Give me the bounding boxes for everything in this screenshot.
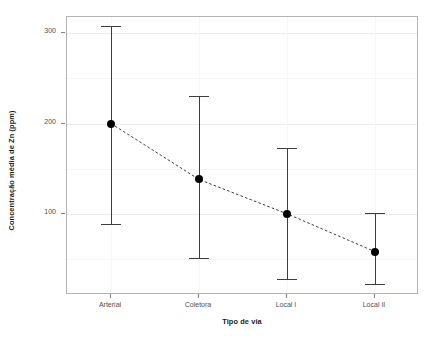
y-tick-mark bbox=[61, 123, 65, 124]
y-tick-label: 200 bbox=[0, 118, 56, 125]
gridline-major bbox=[67, 124, 417, 125]
gridline-major bbox=[67, 214, 417, 215]
errorbar-cap-lower bbox=[101, 224, 121, 225]
x-tick-label: Local I bbox=[241, 301, 331, 308]
errorbar-cap-upper bbox=[277, 148, 297, 149]
connector-line bbox=[67, 17, 418, 294]
x-tick-mark bbox=[286, 294, 287, 298]
x-tick-label: Coletora bbox=[153, 301, 243, 308]
y-tick-mark bbox=[61, 32, 65, 33]
x-tick-mark bbox=[110, 294, 111, 298]
x-tick-mark bbox=[198, 294, 199, 298]
y-axis-title: Concentração média de Zn (ppm) bbox=[0, 0, 22, 341]
data-point bbox=[195, 175, 203, 183]
chart-container: Concentração média de Zn (ppm) 100200300… bbox=[0, 0, 436, 341]
data-point bbox=[283, 210, 291, 218]
x-tick-label: Local II bbox=[329, 301, 419, 308]
gridline-minor bbox=[67, 169, 417, 170]
data-point bbox=[107, 120, 115, 128]
gridline-minor bbox=[67, 78, 417, 79]
y-tick-label: 300 bbox=[0, 27, 56, 34]
errorbar-cap-upper bbox=[101, 26, 121, 27]
errorbar-cap-upper bbox=[189, 96, 209, 97]
errorbar-cap-lower bbox=[277, 279, 297, 280]
errorbar-cap-lower bbox=[365, 284, 385, 285]
x-tick-mark bbox=[374, 294, 375, 298]
y-tick-mark bbox=[61, 213, 65, 214]
x-tick-label: Arterial bbox=[65, 301, 155, 308]
errorbar-cap-upper bbox=[365, 213, 385, 214]
errorbar-cap-lower bbox=[189, 258, 209, 259]
y-tick-label: 100 bbox=[0, 208, 56, 215]
gridline-minor bbox=[67, 259, 417, 260]
data-point bbox=[371, 248, 379, 256]
x-axis-title: Tipo de via bbox=[66, 317, 418, 326]
plot-panel bbox=[66, 16, 418, 294]
gridline-major bbox=[67, 33, 417, 34]
